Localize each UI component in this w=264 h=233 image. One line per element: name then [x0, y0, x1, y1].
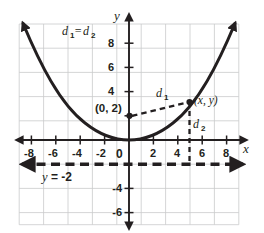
x-tick-2: 2	[150, 147, 156, 159]
x-tick-4: 4	[174, 147, 181, 159]
x-tick-neg6: -6	[48, 147, 58, 159]
y-tick-8: 8	[108, 37, 114, 49]
xy-point	[186, 99, 192, 105]
d2-label-letter: d	[193, 117, 200, 131]
d1-equals-d2-equals: =	[74, 24, 82, 38]
focus-point	[126, 113, 132, 119]
x-tick-6: 6	[199, 147, 205, 159]
x-tick-8: 8	[223, 147, 229, 159]
d1-equals-d2-sub-second: 2	[91, 31, 96, 40]
parabola-directrix-figure: y x d 1 = d 2 d 1 d 2 (0, 2) (x, y) y = …	[0, 0, 264, 233]
d1-equals-d2-d-first: d	[62, 24, 69, 38]
y-tick-6: 6	[108, 61, 114, 73]
directrix-eq-value: = -2	[51, 170, 72, 184]
y-axis-label: y	[112, 8, 120, 23]
y-tick-4: 4	[108, 85, 115, 97]
y-tick-neg4: -4	[112, 182, 123, 194]
focus-coordinate-label: (0, 2)	[95, 102, 122, 114]
annotation-directrix-equation: y = -2	[40, 170, 72, 184]
x-tick-neg2: -2	[96, 147, 106, 159]
x-tick-neg8: -8	[24, 147, 34, 159]
xy-coordinate-label: (x, y)	[194, 94, 218, 107]
x-tick-neg4: -4	[72, 147, 83, 159]
y-tick-neg6: -6	[112, 206, 122, 218]
graph-canvas: y x d 1 = d 2 d 1 d 2 (0, 2) (x, y) y = …	[0, 0, 264, 233]
directrix-eq-y: y	[40, 170, 48, 184]
x-tick-zero: 0	[116, 147, 123, 161]
d1-label-subscript: 1	[164, 93, 169, 102]
d1-equals-d2-d-second: d	[83, 24, 90, 38]
x-axis-label: x	[242, 141, 249, 156]
d1-label-letter: d	[156, 86, 163, 100]
d2-label-subscript: 2	[201, 124, 206, 133]
